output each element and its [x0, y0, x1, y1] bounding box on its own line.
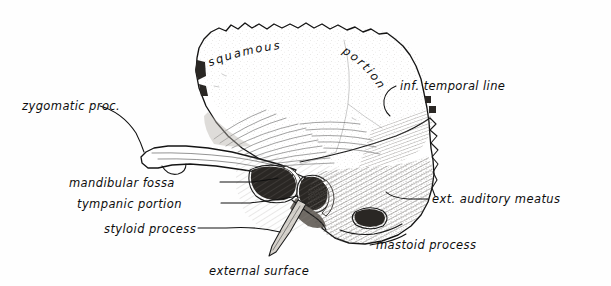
label-tympanic-portion: tympanic portion	[77, 197, 182, 211]
label-inf-temporal-line: inf. temporal line	[400, 79, 505, 93]
label-mandibular-fossa: mandibular fossa	[69, 176, 175, 190]
label-zygomatic-proc: zygomatic proc.	[21, 99, 120, 113]
mastoid-notch	[354, 209, 385, 227]
suture-tooth-1	[429, 106, 436, 113]
suture-tooth-2	[425, 96, 431, 103]
label-external-surface: external surface	[209, 264, 309, 278]
label-mastoid-process: mastoid process	[376, 238, 476, 252]
label-styloid-process: styloid process	[104, 222, 196, 236]
label-ext-auditory-meatus: ext. auditory meatus	[432, 192, 560, 206]
anatomical-figure: squamous portion inf. temporal line zygo…	[0, 0, 611, 286]
temporal-bone-drawing	[141, 20, 445, 256]
